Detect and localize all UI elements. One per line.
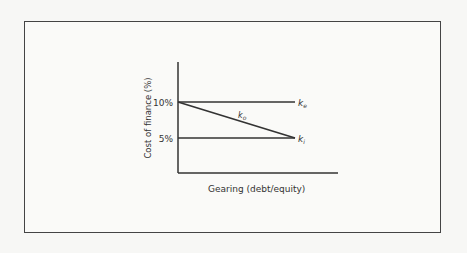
ki-label: ki xyxy=(298,134,305,145)
ytick-5: 5% xyxy=(159,134,174,144)
ko-line xyxy=(178,102,295,138)
x-axis-label: Gearing (debt/equity) xyxy=(208,184,305,194)
chart: 10% 5% ke ko ki Gearing (debt/equity) Co… xyxy=(0,0,467,253)
ko-label: ko xyxy=(238,111,247,121)
ytick-10: 10% xyxy=(153,98,173,108)
ke-label: ke xyxy=(298,98,307,109)
y-axis-label: Cost of finance (%) xyxy=(143,77,153,158)
